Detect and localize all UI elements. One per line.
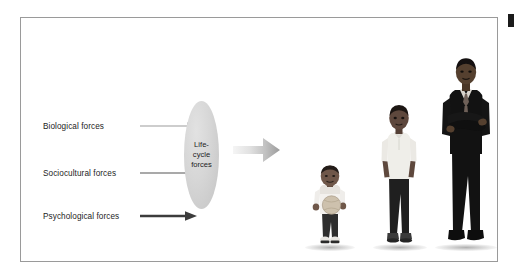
photo-group <box>289 18 499 262</box>
force-row-biological: Biological forces <box>43 118 198 134</box>
photo-toddler <box>307 164 353 246</box>
lifecycle-forces-label: Life- cycle forces <box>191 140 212 170</box>
outcome-arrow-icon <box>233 135 281 165</box>
photo-adult <box>439 50 493 246</box>
force-label-psychological: Psychological forces <box>43 212 136 221</box>
force-row-sociocultural: Sociocultural forces <box>43 165 198 181</box>
force-label-sociocultural: Sociocultural forces <box>43 169 136 178</box>
arrow-psychological-icon <box>140 211 198 221</box>
force-row-psychological: Psychological forces <box>43 208 198 224</box>
corner-registration-mark <box>508 14 514 27</box>
force-label-biological: Biological forces <box>43 122 136 131</box>
photo-teen <box>375 98 423 246</box>
figure-frame: Biological forces Sociocultural forces P… <box>20 17 498 262</box>
lifecycle-forces-ellipse: Life- cycle forces <box>184 101 219 209</box>
